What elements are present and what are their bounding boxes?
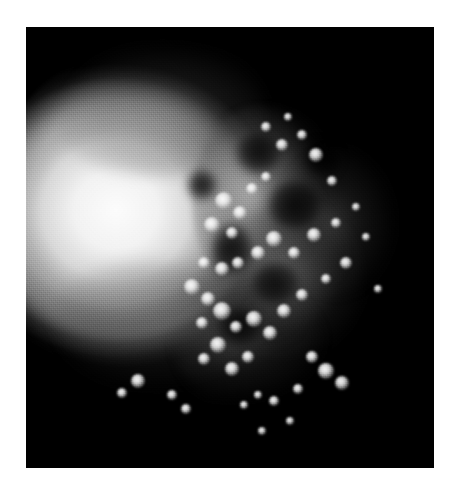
- grayscale-scan-image: [26, 27, 434, 468]
- vignette-overlay: [26, 27, 434, 468]
- figure-page: [0, 0, 451, 496]
